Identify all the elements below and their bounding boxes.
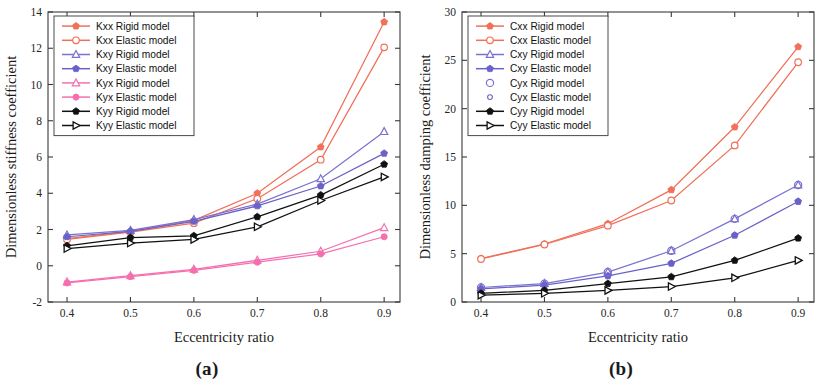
data-point-marker — [128, 239, 135, 246]
data-point-marker — [64, 280, 70, 286]
data-point-marker — [317, 156, 324, 163]
chart-legend: Kxx Rigid modelKxx Elastic modelKxy Rigi… — [54, 16, 194, 136]
legend-label: Kyx Rigid model — [96, 78, 170, 89]
data-point-marker — [254, 259, 260, 265]
y-tick-label: 14 — [31, 6, 43, 18]
legend-label: Kyx Elastic model — [96, 92, 176, 103]
legend-label: Kxx Elastic model — [96, 35, 176, 46]
legend-marker — [487, 37, 494, 44]
y-tick-label: 8 — [36, 115, 42, 127]
data-series — [477, 181, 801, 291]
data-point-marker — [317, 175, 324, 182]
x-tick-label: 0.4 — [474, 307, 489, 319]
data-point-marker — [668, 197, 675, 204]
data-point-marker — [64, 233, 71, 240]
chart-panel-a: 0.40.50.60.70.80.9-202468101214Eccentric… — [0, 0, 414, 386]
data-point-marker — [191, 267, 197, 273]
y-tick-label: 30 — [445, 6, 457, 18]
data-point-marker — [254, 213, 261, 220]
legend-label: Kxx Rigid model — [96, 21, 170, 32]
y-tick-label: 12 — [31, 42, 43, 54]
x-tick-label: 0.5 — [537, 307, 552, 319]
legend-label: Cxx Rigid model — [510, 21, 584, 32]
data-point-marker — [732, 274, 739, 281]
legend-label: Cyy Rigid model — [510, 106, 584, 117]
y-tick-label: 6 — [36, 151, 42, 163]
data-point-marker — [127, 274, 133, 280]
data-point-marker — [317, 143, 324, 150]
data-point-marker — [381, 18, 388, 25]
data-series — [63, 128, 387, 238]
series-line — [481, 185, 798, 287]
y-tick-label: -2 — [32, 296, 42, 308]
data-point-marker — [541, 241, 548, 248]
data-point-marker — [381, 150, 388, 157]
damping-coefficient-chart: 0.40.50.60.70.80.9051015202530Eccentrici… — [414, 0, 828, 352]
x-tick-label: 0.7 — [250, 307, 265, 319]
data-series — [478, 235, 802, 297]
series-line — [67, 132, 384, 235]
data-point-marker — [380, 224, 387, 231]
x-tick-label: 0.8 — [314, 307, 329, 319]
legend-label: Cxx Elastic model — [510, 35, 591, 46]
data-series — [64, 161, 388, 249]
data-point-marker — [381, 161, 388, 168]
legend-label: Cyx Rigid model — [510, 78, 584, 89]
y-tick-label: 10 — [445, 199, 457, 211]
series-line — [481, 201, 798, 288]
legend-label: Cxy Elastic model — [510, 63, 591, 74]
legend-marker — [73, 37, 80, 44]
data-series — [477, 181, 801, 290]
data-point-marker — [731, 257, 738, 264]
legend-label: Cxy Rigid model — [510, 49, 584, 60]
data-point-marker — [668, 283, 675, 290]
x-axis-title: Eccentricity ratio — [588, 329, 688, 345]
data-point-marker — [604, 280, 611, 287]
legend-label: Kxy Elastic model — [96, 63, 176, 74]
data-point-marker — [605, 287, 612, 294]
data-point-marker — [381, 173, 388, 180]
y-axis-title: Dimensionless stiffness coefficient — [3, 56, 19, 258]
y-tick-label: 20 — [445, 103, 457, 115]
x-tick-label: 0.8 — [728, 307, 743, 319]
data-point-marker — [127, 228, 134, 235]
data-series — [478, 198, 802, 292]
data-point-marker — [795, 59, 802, 66]
data-point-marker — [381, 234, 387, 240]
data-point-marker — [318, 251, 324, 257]
y-tick-label: 25 — [445, 54, 457, 66]
legend-label: Kxy Rigid model — [96, 49, 170, 60]
series-line — [481, 260, 798, 295]
data-point-marker — [380, 128, 387, 135]
x-tick-label: 0.7 — [664, 307, 679, 319]
x-tick-label: 0.5 — [123, 307, 138, 319]
y-tick-label: 4 — [36, 187, 42, 199]
x-tick-label: 0.9 — [377, 307, 392, 319]
panel-a-caption: (a) — [0, 358, 414, 380]
data-point-marker — [254, 223, 261, 230]
y-tick-label: 5 — [450, 248, 456, 260]
data-point-marker — [478, 256, 485, 263]
stiffness-coefficient-chart: 0.40.50.60.70.80.9-202468101214Eccentric… — [0, 0, 414, 352]
data-point-marker — [381, 44, 388, 51]
data-point-marker — [605, 222, 612, 229]
x-tick-label: 0.6 — [187, 307, 202, 319]
x-tick-label: 0.9 — [791, 307, 806, 319]
y-tick-label: 15 — [445, 151, 457, 163]
data-point-marker — [731, 142, 738, 149]
legend-label: Kyy Rigid model — [96, 106, 170, 117]
figure-container: 0.40.50.60.70.80.9-202468101214Eccentric… — [0, 0, 829, 386]
chart-panel-b: 0.40.50.60.70.80.9051015202530Eccentrici… — [414, 0, 828, 386]
x-tick-label: 0.6 — [601, 307, 616, 319]
y-tick-label: 10 — [31, 79, 43, 91]
data-point-marker — [317, 182, 324, 189]
x-tick-label: 0.4 — [60, 307, 75, 319]
data-point-marker — [795, 235, 802, 242]
chart-legend: Cxx Rigid modelCxx Elastic modelCxy Rigi… — [468, 16, 608, 136]
legend-label: Cyy Elastic model — [510, 120, 591, 131]
y-tick-label: 2 — [36, 224, 42, 236]
data-point-marker — [318, 197, 325, 204]
legend-label: Kyy Elastic model — [96, 120, 176, 131]
y-tick-label: 0 — [450, 296, 456, 308]
legend-label: Cyx Elastic model — [510, 92, 591, 103]
